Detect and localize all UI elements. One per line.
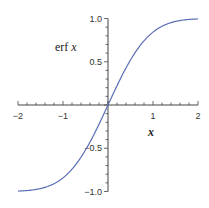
x-tick-label: −2 bbox=[13, 111, 23, 121]
y-tick-label: 0.5 bbox=[89, 57, 102, 67]
x-tick-label: −1 bbox=[58, 111, 68, 121]
erf-chart: −2−1121.00.5−0.5−1.0 erf x x bbox=[0, 0, 209, 208]
x-tick-label: 1 bbox=[150, 111, 155, 121]
y-tick-label: −1.0 bbox=[84, 187, 102, 197]
x-tick-label: 2 bbox=[195, 111, 200, 121]
y-axis-title: erf x bbox=[55, 40, 77, 54]
x-axis-title: x bbox=[147, 125, 154, 139]
y-tick-label: 1.0 bbox=[89, 14, 102, 24]
